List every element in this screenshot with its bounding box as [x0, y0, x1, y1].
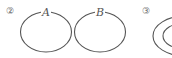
set-a-label: A: [41, 6, 50, 19]
venn-diagram: ② A B ③: [0, 0, 172, 58]
figure-number-2: ②: [6, 6, 14, 16]
inner-set-ellipse: [163, 23, 172, 49]
set-b-label: B: [95, 6, 104, 19]
figure-number-3: ③: [142, 6, 150, 16]
